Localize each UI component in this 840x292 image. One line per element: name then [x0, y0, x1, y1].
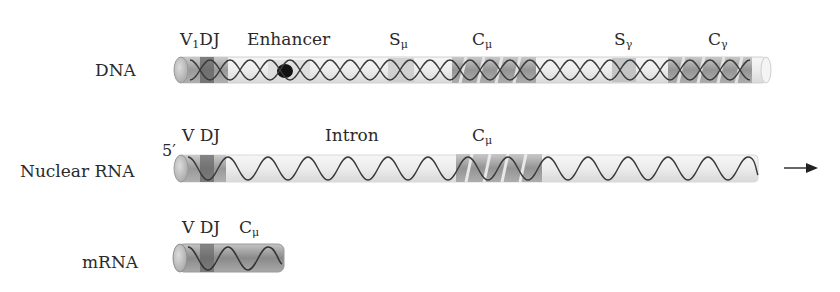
dna-s-mu-segment [388, 58, 414, 82]
nuclear-rna-label-c-mu: Cμ [472, 127, 492, 146]
mrna-label-vdj: V DJ [182, 219, 220, 236]
dna-molecule [174, 57, 771, 83]
dna-s-gamma-segment [612, 58, 636, 82]
arrow-right-icon [784, 163, 818, 173]
dna-label-v1dj: V1DJ [180, 31, 220, 50]
dna-label-c-mu: Cμ [472, 31, 492, 50]
dna-label-c-gamma: Cγ [708, 31, 728, 50]
row-label-mrna: mRNA [82, 254, 138, 271]
nuclear-rna-label-intron: Intron [325, 127, 379, 144]
row-label-nuclear-rna: Nuclear RNA [20, 163, 134, 180]
five-prime-label: 5′ [162, 143, 176, 159]
row-label-dna: DNA [95, 62, 136, 79]
mrna-label-c-mu: Cμ [239, 219, 259, 238]
dna-label-s-mu: Sμ [389, 31, 408, 50]
nuclear-rna-label-vdj: V DJ [182, 127, 220, 144]
nuclear-rna-molecule [174, 154, 758, 182]
dna-label-s-gamma: Sγ [614, 31, 632, 50]
mrna-molecule [173, 244, 284, 272]
dna-label-enhancer: Enhancer [247, 31, 330, 48]
